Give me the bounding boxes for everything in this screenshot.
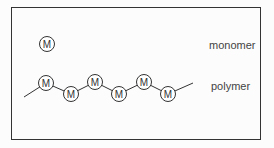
polymer-unit: M bbox=[161, 87, 176, 102]
polymer-unit: M bbox=[137, 75, 152, 90]
polymer-diagram: M M M M M M M bbox=[0, 0, 274, 148]
polymer-unit: M bbox=[112, 87, 127, 102]
svg-text:M: M bbox=[164, 89, 172, 100]
polymer-chain: M M M M M M bbox=[24, 75, 193, 102]
svg-text:M: M bbox=[43, 39, 51, 50]
svg-text:M: M bbox=[42, 78, 50, 89]
svg-text:M: M bbox=[140, 77, 148, 88]
polymer-label: polymer bbox=[211, 80, 250, 92]
polymer-unit: M bbox=[88, 75, 103, 90]
polymer-unit: M bbox=[64, 87, 79, 102]
svg-text:M: M bbox=[91, 77, 99, 88]
svg-text:M: M bbox=[67, 89, 75, 100]
svg-text:M: M bbox=[115, 89, 123, 100]
polymer-unit: M bbox=[39, 76, 54, 91]
monomer-label: monomer bbox=[209, 39, 255, 51]
monomer-unit: M bbox=[40, 37, 55, 52]
